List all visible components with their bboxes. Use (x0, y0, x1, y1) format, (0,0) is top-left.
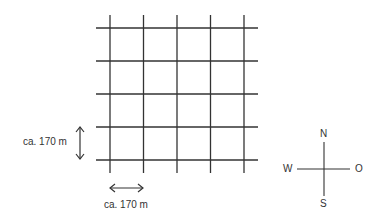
compass-north-label: N (320, 128, 327, 139)
horizontal-scale-label: ca. 170 m (104, 199, 148, 210)
grid-diagram (0, 0, 381, 221)
vertical-scale-arrow-icon (76, 127, 84, 159)
compass-east-label: O (355, 163, 363, 174)
compass-south-label: S (320, 198, 327, 209)
street-grid (96, 15, 258, 173)
compass-west-label: W (283, 163, 292, 174)
vertical-scale-label: ca. 170 m (23, 136, 67, 147)
compass-icon (297, 142, 350, 196)
horizontal-scale-arrow-icon (110, 184, 143, 192)
